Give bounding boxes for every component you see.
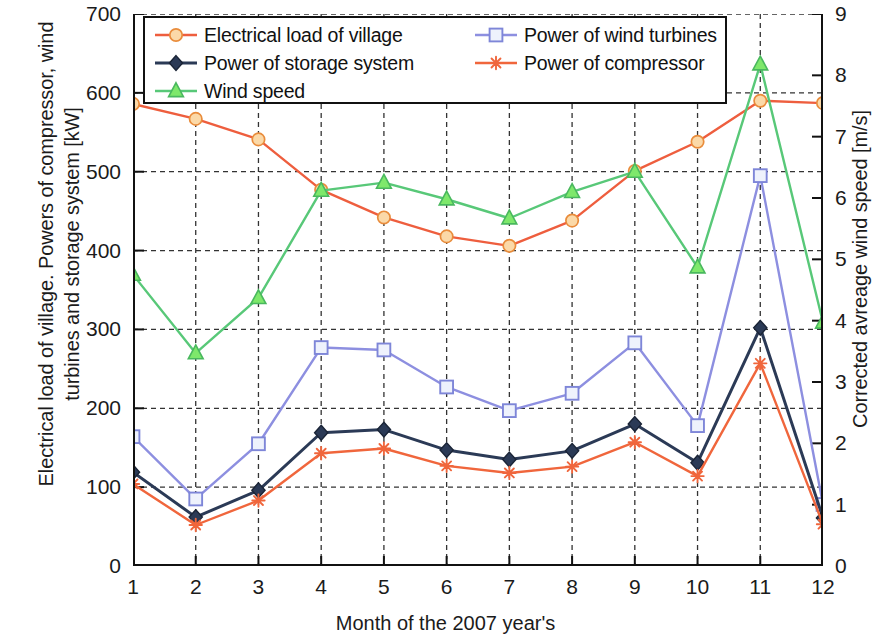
legend-marker-square-icon — [473, 24, 519, 46]
data-point-triangle — [169, 83, 184, 97]
legend-entry: Power of compressor — [473, 49, 737, 77]
x-axis-tick-label: 8 — [552, 575, 592, 599]
y-axis-left-tick-label: 600 — [61, 81, 121, 105]
x-axis-tick-label: 12 — [803, 575, 843, 599]
legend-label: Electrical load of village — [204, 24, 403, 47]
legend-label: Power of storage system — [204, 52, 414, 75]
legend-entry: Electrical load of village — [153, 21, 473, 49]
x-axis-tick-label: 2 — [176, 575, 216, 599]
legend-entry: Wind speed — [153, 77, 473, 105]
x-axis-tick-label: 4 — [301, 575, 341, 599]
y-axis-right-tick-label: 3 — [835, 370, 875, 394]
legend-label: Power of wind turbines — [524, 24, 717, 47]
y-axis-right-tick-label: 2 — [835, 431, 875, 455]
y-axis-left-tick-label: 200 — [61, 396, 121, 420]
wind-energy-line-chart: Electrical load of village. Powers of co… — [0, 0, 891, 641]
y-axis-left-tick-label: 0 — [61, 554, 121, 578]
x-axis-tick-label: 9 — [615, 575, 655, 599]
y-axis-left-tick-label: 300 — [61, 317, 121, 341]
legend-entry: Power of wind turbines — [473, 21, 737, 49]
data-point-square — [490, 29, 503, 42]
legend-marker-star-icon — [473, 52, 519, 74]
y-axis-right-tick-label: 9 — [835, 2, 875, 26]
data-point-star — [490, 57, 502, 69]
y-axis-right-tick-label: 7 — [835, 125, 875, 149]
x-axis-tick-label: 11 — [740, 575, 780, 599]
legend-marker-triangle-icon — [153, 80, 199, 102]
legend-entry: Power of storage system — [153, 49, 473, 77]
chart-legend: Electrical load of villagePower of wind … — [143, 16, 727, 104]
x-axis-tick-label: 3 — [238, 575, 278, 599]
y-axis-left-tick-label: 400 — [61, 239, 121, 263]
data-point-circle — [170, 29, 182, 41]
data-point-diamond — [169, 56, 182, 71]
x-axis-tick-label: 10 — [678, 575, 718, 599]
y-axis-right-tick-label: 8 — [835, 63, 875, 87]
x-axis-tick-label: 7 — [489, 575, 529, 599]
y-axis-right-tick-label: 5 — [835, 247, 875, 271]
legend-label: Wind speed — [204, 80, 305, 103]
x-axis-title: Month of the 2007 year's — [0, 612, 891, 635]
x-axis-tick-label: 6 — [427, 575, 467, 599]
y-axis-left-tick-label: 700 — [61, 2, 121, 26]
y-axis-right-tick-label: 4 — [835, 309, 875, 333]
y-axis-right-tick-label: 6 — [835, 186, 875, 210]
y-axis-left-tick-label: 100 — [61, 475, 121, 499]
legend-label: Power of compressor — [524, 52, 704, 75]
legend-marker-circle-icon — [153, 24, 199, 46]
y-axis-right-tick-label: 1 — [835, 493, 875, 517]
x-axis-tick-label: 5 — [364, 575, 404, 599]
x-axis-tick-label: 1 — [113, 575, 153, 599]
y-axis-left-tick-label: 500 — [61, 160, 121, 184]
legend-marker-diamond-icon — [153, 52, 199, 74]
